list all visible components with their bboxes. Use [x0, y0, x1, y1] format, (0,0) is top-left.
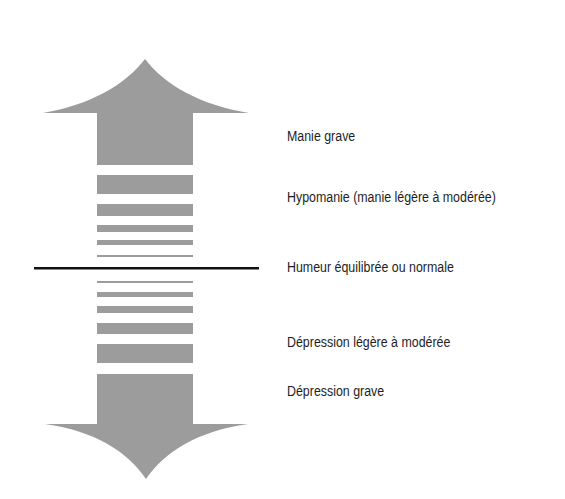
- up-bar-4: [97, 240, 193, 245]
- down-arrow-shaft: [97, 374, 193, 425]
- upward-arrow-mania: [43, 59, 249, 257]
- up-bar-5: [97, 255, 193, 257]
- up-arrow-head-icon: [43, 59, 249, 113]
- normal-mood-divider: [34, 267, 259, 270]
- down-bar-2: [97, 292, 193, 297]
- up-bar-1: [97, 175, 193, 194]
- down-bar-4: [97, 323, 193, 334]
- mood-spectrum-diagram: Manie grave Hypomanie (manie légère à mo…: [0, 0, 565, 499]
- down-arrow-head-icon: [45, 424, 248, 479]
- down-bar-3: [97, 306, 193, 313]
- label-hypomanie: Hypomanie (manie légère à modérée): [287, 188, 496, 206]
- up-arrow-shaft: [97, 113, 193, 165]
- up-bar-3: [97, 225, 193, 232]
- up-bar-2: [97, 204, 193, 216]
- down-bar-5: [97, 344, 193, 363]
- label-humeur-normale: Humeur équilibrée ou normale: [287, 258, 454, 276]
- mood-arrow-graphic: [0, 0, 565, 499]
- down-bar-1: [97, 281, 193, 283]
- downward-arrow-depression: [45, 281, 248, 479]
- label-depression-legere: Dépression légère à modérée: [287, 333, 450, 351]
- label-depression-grave: Dépression grave: [287, 382, 384, 400]
- label-manie-grave: Manie grave: [287, 127, 355, 145]
